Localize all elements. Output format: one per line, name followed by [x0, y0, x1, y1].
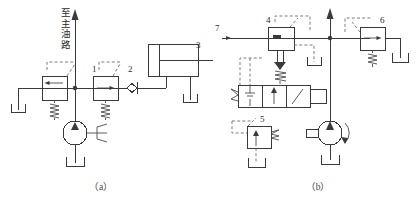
spring-valve-4: [275, 71, 286, 84]
main-supply-line-b: [327, 8, 334, 121]
spring-valve-5: [271, 130, 279, 140]
spring-valve-6: [368, 50, 377, 67]
label-2: 2: [128, 64, 133, 74]
label-7: 7: [215, 23, 220, 33]
label-3: 3: [196, 40, 201, 50]
port-7: [226, 36, 231, 40]
panel-a: 1 2 3: [11, 9, 213, 192]
relief-valve-a-left[interactable]: [11, 62, 75, 120]
sequence-valve-5[interactable]: [232, 118, 279, 167]
spring-actuator-dcv: [231, 89, 238, 101]
relief-valve-6[interactable]: [345, 18, 408, 67]
label-5: 5: [260, 114, 265, 124]
label-6: 6: [380, 15, 385, 25]
relief-valve-4[interactable]: [268, 16, 321, 84]
hydraulic-pump-b[interactable]: [306, 121, 349, 164]
hydraulic-cylinder-3[interactable]: [148, 44, 213, 102]
label-4: 4: [266, 15, 271, 25]
figure-canvas: 至主油路: [0, 0, 418, 207]
caption-b: （b）: [306, 181, 331, 192]
caption-a: （a）: [89, 181, 113, 192]
panel-b: 7: [215, 8, 408, 192]
check-valve-2[interactable]: [118, 82, 166, 94]
pump-drive-symbol-a: [87, 124, 107, 142]
junction-dot-b: [328, 36, 332, 40]
spring-valve-1: [101, 100, 110, 120]
spring-a-left: [50, 100, 59, 120]
unloading-valve-1[interactable]: [93, 62, 120, 120]
label-1: 1: [92, 64, 97, 74]
schematic-svg: 1 2 3: [0, 0, 418, 207]
main-supply-line-a: [72, 9, 79, 88]
